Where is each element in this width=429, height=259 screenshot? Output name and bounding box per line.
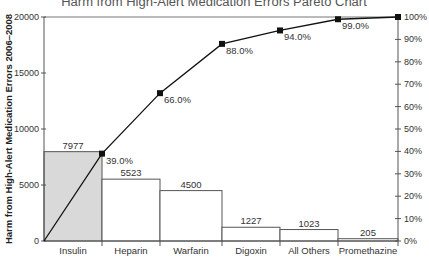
bar-value-label: 5523: [120, 167, 141, 178]
category-label: Promethazine: [339, 245, 398, 256]
y2-tick-label: 100%: [404, 12, 427, 22]
category-label: Digoxin: [235, 245, 267, 256]
y2-tick-label: 70%: [404, 79, 422, 89]
y2-tick-label: 60%: [404, 102, 422, 112]
category-label: Warfarin: [173, 245, 209, 256]
y-tick-label: 15000: [14, 68, 39, 78]
cumulative-label: 94.0%: [284, 31, 311, 42]
cumulative-marker: [335, 16, 341, 22]
y-tick-label: 10000: [14, 124, 39, 134]
bar-value-label: 7977: [62, 140, 83, 151]
y-tick-label: 20000: [14, 12, 39, 22]
y2-tick-label: 50%: [404, 124, 422, 134]
right-axis: 0%10%20%30%40%50%60%70%80%90%100%: [395, 12, 427, 246]
y2-tick-label: 0%: [404, 236, 417, 246]
bar-heparin: [102, 179, 160, 241]
y2-tick-label: 30%: [404, 169, 422, 179]
category-label: All Others: [288, 245, 330, 256]
bars-group: 79775523450012271023205: [44, 140, 398, 241]
category-axis: InsulinHeparinWarfarinDigoxinAll OthersP…: [59, 241, 398, 256]
y2-tick-label: 20%: [404, 191, 422, 201]
cumulative-marker: [99, 151, 105, 157]
y2-tick-label: 10%: [404, 214, 422, 224]
bar-all-others: [280, 230, 338, 241]
cumulative-marker: [157, 90, 163, 96]
y2-tick-label: 80%: [404, 57, 422, 67]
cumulative-marker: [219, 41, 225, 47]
bar-value-label: 4500: [180, 179, 201, 190]
left-axis: 05000100001500020000: [14, 12, 46, 246]
bar-value-label: 1227: [240, 215, 261, 226]
cumulative-label: 39.0%: [106, 155, 133, 166]
bar-value-label: 1023: [298, 218, 319, 229]
cumulative-label: 66.0%: [164, 94, 191, 105]
chart-title: Harm from High-Alert Medication Errors P…: [61, 0, 367, 9]
cumulative-marker: [395, 14, 401, 20]
cumulative-label: 99.0%: [342, 20, 369, 31]
bar-digoxin: [222, 227, 280, 241]
y-axis-label: Harm from High-Alert Medication Errors 2…: [3, 14, 14, 244]
pareto-chart: Harm from High-Alert Medication Errors P…: [0, 0, 429, 259]
bar-value-label: 205: [360, 227, 376, 238]
bar-warfarin: [160, 191, 222, 241]
y2-tick-label: 40%: [404, 146, 422, 156]
y2-tick-label: 90%: [404, 34, 422, 44]
y-tick-label: 0: [34, 236, 39, 246]
cumulative-marker: [277, 27, 283, 33]
y-tick-label: 5000: [19, 180, 39, 190]
category-label: Insulin: [59, 245, 86, 256]
cumulative-label: 88.0%: [226, 45, 253, 56]
category-label: Heparin: [114, 245, 147, 256]
